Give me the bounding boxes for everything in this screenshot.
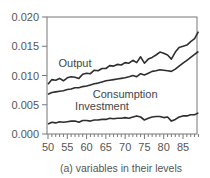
y-tick-label: 0.020: [11, 11, 39, 23]
y-tick-label: 0.010: [11, 70, 39, 82]
series-label-investment: Investment: [75, 100, 129, 112]
series-label-output: Output: [58, 57, 91, 69]
y-tick-label: 0.005: [11, 99, 39, 111]
x-tick-label: 50: [42, 141, 54, 153]
x-tick-label: 60: [80, 141, 92, 153]
series-line-investment: [48, 113, 198, 124]
y-tick-label: 0.000: [11, 128, 39, 140]
y-tick-label: 0.015: [11, 40, 39, 52]
x-tick-label: 70: [119, 141, 131, 153]
plot-frame: [47, 17, 197, 134]
x-tick-label: 80: [158, 141, 170, 153]
x-tick-label: 85: [177, 141, 189, 153]
x-tick-label: 65: [100, 141, 112, 153]
labels-group: OutputConsumptionInvestment: [58, 57, 157, 112]
line-chart: 0.0000.0050.0100.0150.020505560657075808…: [0, 0, 210, 178]
axes: 0.0000.0050.0100.0150.020505560657075808…: [11, 11, 198, 153]
x-tick-label: 55: [61, 141, 73, 153]
chart-caption: (a) variables in their levels: [60, 162, 182, 174]
series-label-consumption: Consumption: [93, 88, 158, 100]
x-tick-label: 75: [138, 141, 150, 153]
